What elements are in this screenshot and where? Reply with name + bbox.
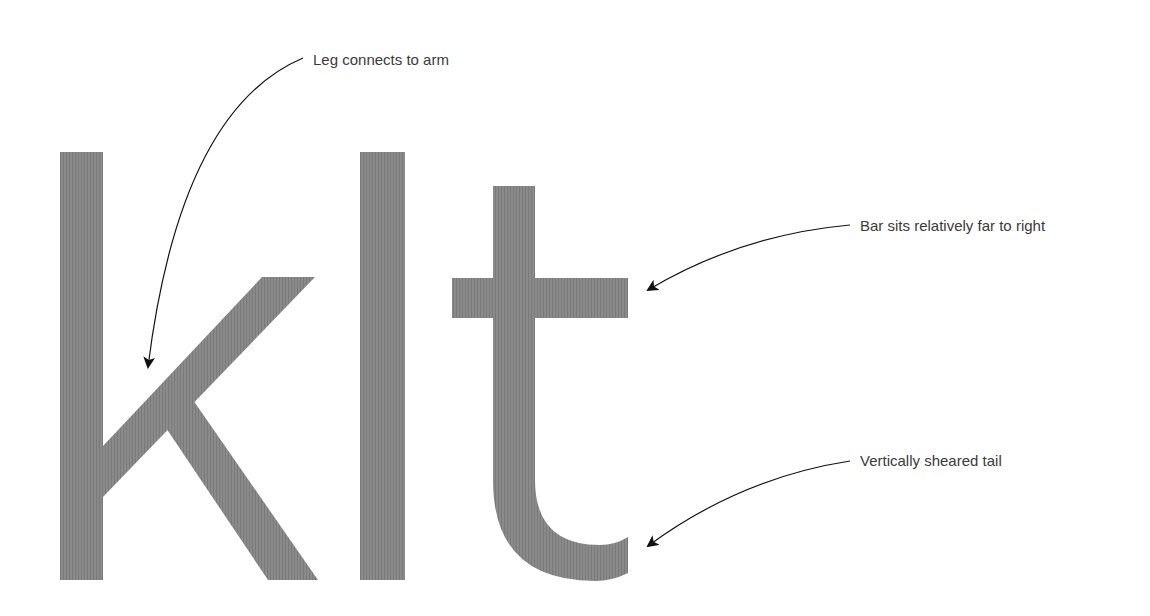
- annotation-bar: [648, 225, 850, 290]
- glyph-l: [360, 152, 405, 580]
- t-stem-and-tail: [493, 186, 628, 581]
- glyph-k: [60, 152, 318, 580]
- glyph-t: [452, 186, 628, 581]
- type-anatomy-diagram: Leg connects to arm Bar sits relatively …: [0, 0, 1150, 616]
- t-bar: [452, 278, 628, 318]
- l-stem: [360, 152, 405, 580]
- diagram-canvas: [0, 0, 1150, 616]
- annotation-tail: [648, 461, 850, 546]
- label-bar-position: Bar sits relatively far to right: [860, 217, 1045, 235]
- k-stem: [60, 152, 103, 580]
- tail-arrow-leader: [648, 461, 850, 546]
- label-leg-connects-to-arm: Leg connects to arm: [313, 51, 449, 69]
- k-leg: [162, 400, 318, 580]
- label-sheared-tail: Vertically sheared tail: [860, 452, 1002, 470]
- bar-arrow-leader: [648, 225, 850, 290]
